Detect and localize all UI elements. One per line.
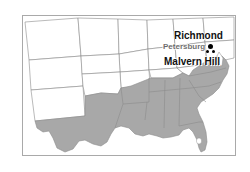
richmond-map-marker: [208, 44, 213, 49]
map-label-petersburg: Petersburg: [163, 43, 205, 51]
petersburg-map-marker: [206, 50, 209, 53]
map-label-richmond: Richmond: [174, 31, 223, 41]
state-mountain-west: [29, 56, 83, 90]
map-label-malvern-hill: Malvern Hill: [164, 57, 220, 67]
state-new-mexico: [31, 86, 85, 121]
state-northwest: [25, 18, 81, 60]
lake-okeechobee: [196, 138, 201, 144]
malvern-hill-map-marker: [212, 50, 215, 53]
map-figure: Richmond Petersburg Malvern Hill: [0, 0, 250, 172]
state-colorado: [81, 54, 120, 74]
state-dakotas: [118, 19, 148, 54]
state-north-central-west: [78, 18, 119, 56]
state-oklahoma: [82, 72, 121, 96]
